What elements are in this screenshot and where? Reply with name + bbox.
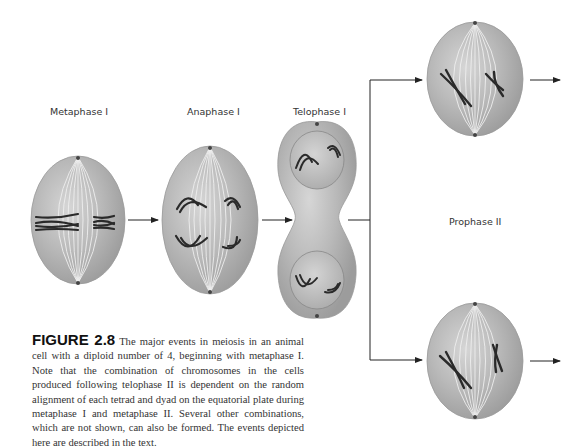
label-telophase-1: Telophase I — [293, 106, 346, 117]
label-anaphase-1: Anaphase I — [187, 106, 240, 117]
figure-number: FIGURE 2.8 — [32, 331, 115, 348]
branch-connector — [348, 80, 422, 360]
prophase-2-cell-top — [427, 21, 523, 137]
caption-text: The major events in meiosis in an animal… — [32, 336, 304, 448]
centrosome-bottom — [76, 281, 80, 285]
anaphase-1-cell — [162, 146, 258, 294]
label-prophase-2: Prophase II — [449, 216, 501, 227]
figure-caption: FIGURE 2.8 The major events in meiosis i… — [32, 333, 304, 448]
prophase-2-cell-bottom — [427, 302, 523, 419]
label-metaphase-1: Metaphase I — [50, 106, 108, 117]
centrosome-top — [76, 156, 80, 160]
nucleus-top — [290, 131, 344, 189]
metaphase-1-cell — [31, 156, 125, 285]
